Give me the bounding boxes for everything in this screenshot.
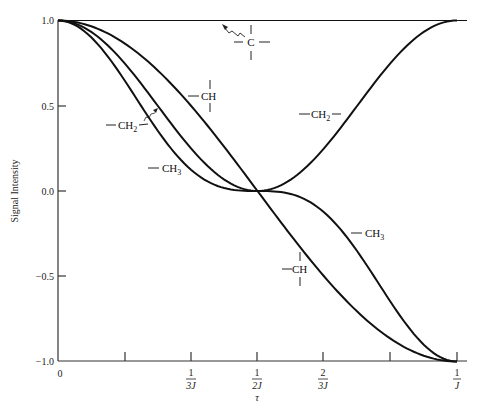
label-text: C [247,36,254,48]
arrow-head-icon [222,24,228,30]
fraction-numerator: 1 [189,367,194,378]
fraction-denominator: J [455,380,460,391]
y-tick-label: 1.0 [42,15,55,26]
x-tick-label-1-J: 1 J [453,367,461,391]
curve-ch3 [58,21,457,362]
arrow-head-icon [153,108,158,113]
x-tick-label-zero: 0 [58,368,63,379]
signal-intensity-chart: 1.0 0.5 0.0 −0.5 −1.0 Signal Intensity 0… [0,0,478,416]
curve-ch2 [58,21,457,192]
bond-line [139,124,148,125]
label-text: CH3 [365,227,384,242]
label-ch3-left: CH3 [148,162,181,177]
x-axis-title: τ [255,392,259,403]
label-text: CH2 [311,108,330,123]
label-text: CH2 [118,119,137,134]
y-tick-label: 0.0 [42,186,55,197]
y-tick-label: −0.5 [36,271,54,282]
label-text: CH [292,263,307,275]
label-ch-lower: CH [282,252,307,286]
label-ch2-right: CH2 [299,108,341,123]
wavy-arrow-icon [224,27,245,37]
x-tick-labels: 0 1 3J 1 2J 2 3J 1 J [58,367,462,391]
fraction-numerator: 1 [255,367,260,378]
label-ch3-right: CH3 [351,227,384,242]
fraction-denominator: 2J [252,380,262,391]
x-tick-label-1-2J: 1 2J [252,367,262,391]
x-tick-label-2-3J: 2 3J [317,367,328,391]
fraction-denominator: 3J [185,380,196,391]
fraction-denominator: 3J [317,380,328,391]
label-text: CH [201,90,216,102]
y-axis-title: Signal Intensity [9,159,20,222]
label-quaternary-c: C [222,24,270,60]
fraction-numerator: 1 [455,367,460,378]
y-tick-labels: 1.0 0.5 0.0 −0.5 −1.0 [36,15,54,367]
fraction-numerator: 2 [321,367,326,378]
curves [58,21,467,362]
x-tick-label-1-3J: 1 3J [185,367,196,391]
label-text: CH3 [162,162,181,177]
y-tick-label: 0.5 [42,101,55,112]
y-tick-label: −1.0 [36,356,54,367]
